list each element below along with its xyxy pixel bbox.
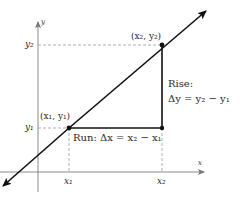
point-p2-label: (x₂, y₂): [131, 32, 161, 41]
slope-diagram: y x y₂ y₁ x₁ x₂ (x₁, y₁) (x₂, y₂) Rise: …: [0, 0, 247, 200]
run-label: Run: Δx = x₂ − x₁: [73, 133, 162, 143]
y-axis-label: y: [41, 19, 45, 26]
rise-title: Rise:: [168, 79, 193, 89]
x-axis-label: x: [198, 160, 202, 167]
secant-line-lower: [3, 128, 69, 186]
x1-tick-label: x₁: [64, 177, 73, 186]
y1-tick-label: y₁: [25, 123, 34, 132]
rise-formula: Δy = y₂ − y₁: [168, 94, 230, 104]
y2-tick-label: y₂: [25, 40, 34, 49]
secant-line: [69, 11, 206, 128]
point-p2: [160, 43, 165, 48]
x2-tick-label: x₂: [157, 177, 166, 186]
point-p1: [67, 126, 72, 131]
corner-point: [160, 126, 164, 130]
point-p1-label: (x₁, y₁): [40, 112, 70, 121]
